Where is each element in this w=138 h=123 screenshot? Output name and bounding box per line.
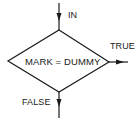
input-arrowhead-icon <box>57 13 62 21</box>
flowchart-canvas: IN MARK = DUMMY TRUE FALSE <box>0 0 138 123</box>
input-label: IN <box>68 11 77 20</box>
false-label: FALSE <box>22 98 51 107</box>
decision-label: MARK = DUMMY <box>25 57 100 66</box>
false-arrowhead-icon <box>57 99 62 107</box>
true-arrowhead-icon <box>116 60 124 65</box>
true-label: TRUE <box>110 42 135 51</box>
